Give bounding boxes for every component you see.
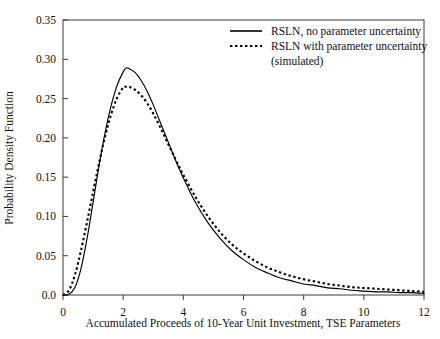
y-tick-label: 0.35 — [36, 14, 56, 26]
chart-figure: 024681012 0.00.050.100.150.200.250.300.3… — [0, 0, 440, 339]
y-tick-label: 0.20 — [36, 132, 56, 144]
y-tick-label: 0.25 — [36, 93, 56, 105]
pdf-line-chart: 024681012 0.00.050.100.150.200.250.300.3… — [0, 0, 440, 339]
y-tick-label: 0.15 — [36, 171, 56, 183]
y-tick-label: 0.10 — [36, 210, 56, 222]
x-tick-label: 0 — [60, 306, 66, 318]
legend-label-dotted-continued: (simulated) — [271, 55, 324, 68]
y-axis-title: Probability Density Function — [3, 91, 16, 225]
y-tick-label: 0.30 — [36, 53, 56, 65]
y-tick-label: 0.05 — [36, 250, 56, 262]
y-tick-label: 0.0 — [42, 289, 57, 301]
x-axis-title: Accumulated Proceeds of 10-Year Unit Inv… — [86, 317, 401, 330]
legend-label-solid: RSLN, no parameter uncertainty — [271, 25, 421, 38]
x-tick-label: 12 — [418, 306, 430, 318]
legend-label-dotted: RSLN with parameter uncertainty — [271, 40, 427, 53]
